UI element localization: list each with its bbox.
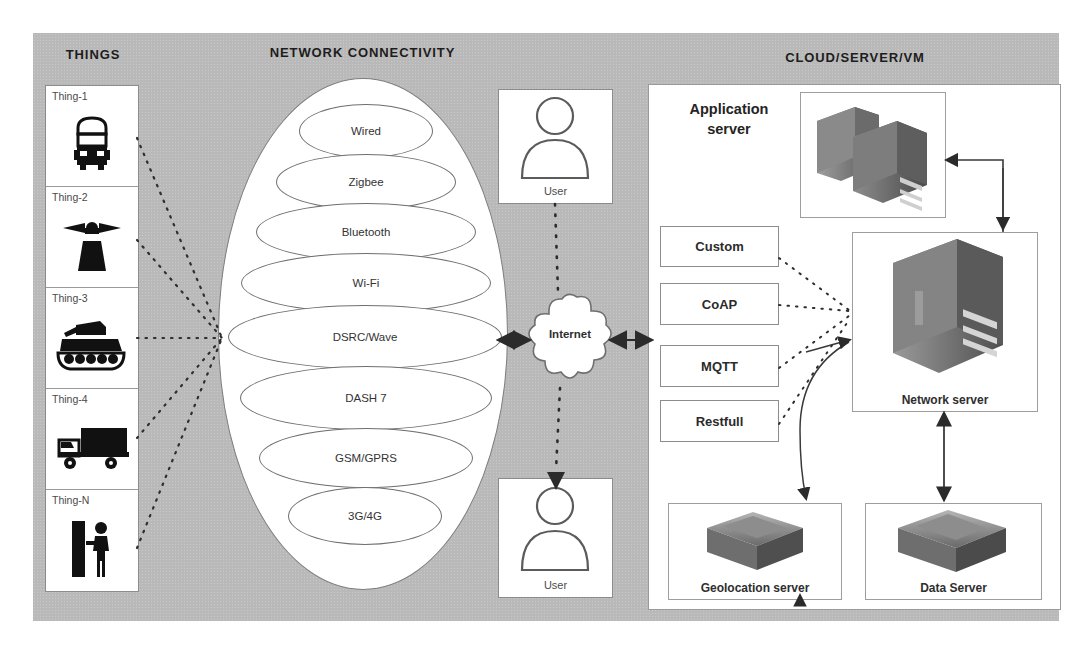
- data-server-box[interactable]: Data Server: [865, 503, 1042, 600]
- database-box-icon: [669, 504, 841, 576]
- user-box-bottom[interactable]: User: [498, 478, 613, 598]
- network-tech-wifi[interactable]: Wi-Fi: [241, 253, 491, 313]
- thing-label: Thing-3: [52, 292, 88, 304]
- network-tech-dsrc-wave[interactable]: DSRC/Wave: [228, 305, 502, 369]
- things-header: THINGS: [45, 47, 141, 62]
- truck-icon: [46, 409, 138, 486]
- thing-label: Thing-2: [52, 191, 88, 203]
- antenna-tower-icon: [46, 207, 138, 284]
- cloud-icon: [524, 292, 616, 388]
- thing-label: Thing-1: [52, 90, 88, 102]
- network-tech-3g-4g[interactable]: 3G/4G: [288, 487, 442, 545]
- internet-label: Internet: [524, 328, 616, 340]
- tower-server-icon: [853, 233, 1037, 383]
- protocol-coap[interactable]: CoAP: [660, 283, 779, 325]
- data-server-label: Data Server: [866, 581, 1041, 595]
- protocol-custom[interactable]: Custom: [660, 226, 779, 267]
- cloud-header: CLOUD/SERVER/VM: [700, 50, 1010, 65]
- diagram-canvas: THINGS NETWORK CONNECTIVITY CLOUD/SERVER…: [0, 0, 1091, 649]
- database-box-icon: [866, 504, 1041, 576]
- thing-item-5[interactable]: Thing-N: [46, 490, 138, 591]
- user-label: User: [499, 579, 612, 591]
- network-header: NETWORK CONNECTIVITY: [215, 45, 510, 60]
- user-avatar-icon: [499, 90, 612, 182]
- application-server-label-line1: Application: [690, 101, 769, 117]
- user-box-top[interactable]: User: [498, 89, 613, 204]
- geolocation-server-label: Geolocation server: [669, 581, 841, 595]
- user-label: User: [499, 185, 612, 197]
- application-server-box[interactable]: [800, 92, 946, 218]
- thing-label: Thing-4: [52, 393, 88, 405]
- bus-icon: [46, 106, 138, 183]
- network-tech-wired[interactable]: Wired: [299, 104, 433, 158]
- protocol-restfull[interactable]: Restfull: [660, 400, 779, 442]
- dual-tower-server-icon: [801, 93, 945, 217]
- network-tech-gsm-gprs[interactable]: GSM/GPRS: [259, 428, 473, 488]
- person-at-barrier-icon: [46, 510, 138, 588]
- network-tech-zigbee[interactable]: Zigbee: [276, 154, 456, 210]
- things-column: Thing-1 Thing-2: [45, 85, 139, 592]
- network-tech-dash7[interactable]: DASH 7: [240, 366, 492, 430]
- geolocation-server-box[interactable]: Geolocation server: [668, 503, 842, 600]
- network-server-label: Network server: [853, 393, 1037, 407]
- protocol-mqtt[interactable]: MQTT: [660, 345, 779, 387]
- thing-item-4[interactable]: Thing-4: [46, 389, 138, 490]
- network-server-box[interactable]: Network server: [852, 232, 1038, 412]
- application-server-label-line2: server: [707, 121, 751, 137]
- thing-item-2[interactable]: Thing-2: [46, 187, 138, 288]
- thing-item-3[interactable]: Thing-3: [46, 288, 138, 389]
- application-server-label: Application server: [668, 100, 790, 139]
- thing-item-1[interactable]: Thing-1: [46, 86, 138, 187]
- user-avatar-icon: [499, 479, 612, 574]
- thing-label: Thing-N: [52, 494, 89, 506]
- tank-icon: [46, 308, 138, 385]
- internet-cloud[interactable]: Internet: [524, 292, 616, 388]
